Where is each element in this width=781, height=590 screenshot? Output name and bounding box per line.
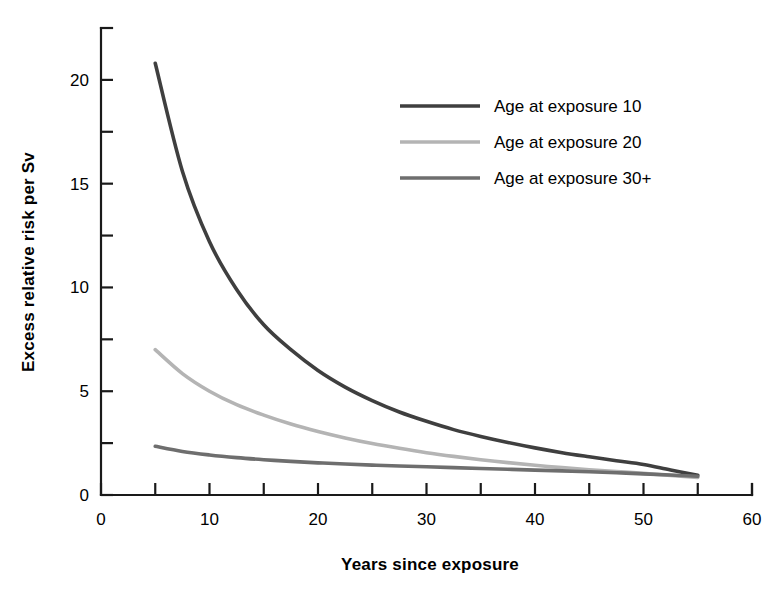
chart-figure: 05101520 0102030405060 Excess relative r… <box>0 0 781 590</box>
x-tick-label: 20 <box>309 510 328 529</box>
x-tick-label: 0 <box>96 510 105 529</box>
y-axis-tick-labels: 05101520 <box>70 71 89 505</box>
data-series-group <box>155 63 698 477</box>
y-tick-label: 0 <box>80 486 89 505</box>
y-tick-label: 10 <box>70 278 89 297</box>
y-axis-ticks <box>101 80 113 495</box>
x-tick-label: 10 <box>200 510 219 529</box>
legend-label-1: Age at exposure 10 <box>494 97 641 116</box>
legend-label-3: Age at exposure 30+ <box>494 169 651 188</box>
x-axis-title: Years since exposure <box>341 555 519 574</box>
legend: Age at exposure 10Age at exposure 20Age … <box>400 97 651 188</box>
x-tick-label: 60 <box>743 510 762 529</box>
y-axis-title: Excess relative risk per Sv <box>19 152 38 372</box>
x-tick-label: 40 <box>526 510 545 529</box>
y-tick-label: 15 <box>70 175 89 194</box>
axes-group <box>101 28 752 495</box>
y-tick-label: 5 <box>80 382 89 401</box>
x-axis-ticks <box>101 483 752 495</box>
x-tick-label: 50 <box>634 510 653 529</box>
legend-label-2: Age at exposure 20 <box>494 133 641 152</box>
excess-relative-risk-line-chart: 05101520 0102030405060 Excess relative r… <box>0 0 781 590</box>
x-tick-label: 30 <box>417 510 436 529</box>
series-line-1 <box>155 63 698 475</box>
y-tick-label: 20 <box>70 71 89 90</box>
x-axis-tick-labels: 0102030405060 <box>96 510 761 529</box>
